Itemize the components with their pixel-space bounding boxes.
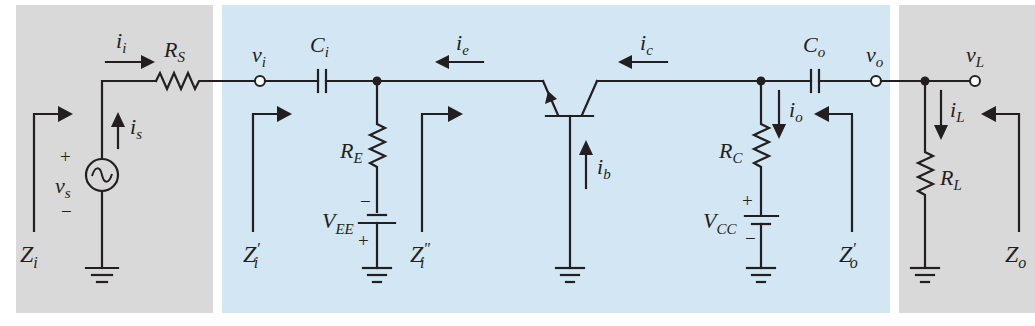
- source-plus-sign: +: [60, 146, 71, 167]
- vcc-plus-sign: +: [742, 190, 753, 211]
- vee-plus-sign: +: [358, 230, 369, 251]
- cb-amplifier-diagram: + vs − RS ii is Zi vi Ci: [0, 0, 1035, 326]
- vee-minus-sign: −: [360, 191, 371, 212]
- terminal-vi: [255, 76, 265, 86]
- source-minus-sign: −: [61, 201, 72, 222]
- terminal-vl: [970, 76, 980, 86]
- vcc-minus-sign: −: [745, 228, 756, 249]
- zo-prime-label: Z′o: [839, 240, 858, 271]
- zi-prime-label: Z′i: [243, 240, 260, 271]
- terminal-vo: [871, 76, 881, 86]
